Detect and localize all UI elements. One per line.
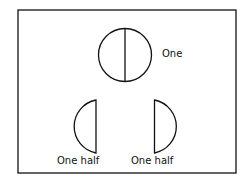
right-half-circle	[155, 100, 177, 153]
whole-label: One	[162, 48, 182, 59]
fraction-diagram	[0, 0, 247, 183]
diagram-frame	[18, 10, 236, 173]
left-half-label: One half	[57, 155, 99, 166]
left-half-circle	[74, 100, 96, 153]
right-half-label: One half	[131, 155, 173, 166]
whole-circle	[99, 29, 152, 82]
